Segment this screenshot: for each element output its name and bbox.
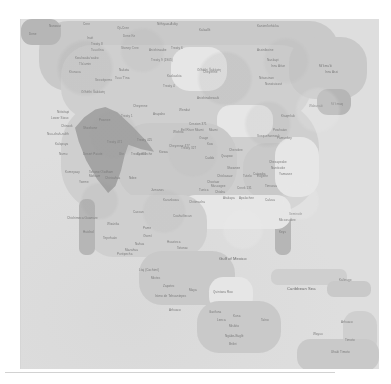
map-label: Kiowa	[159, 151, 168, 154]
map-label: Wayuu	[313, 333, 323, 336]
map-label: Keys	[279, 231, 286, 234]
map-label: Wixárika	[107, 223, 119, 226]
map-label: Ute	[119, 153, 124, 156]
map-label: Coahuiltecan	[173, 215, 192, 218]
map-label: Stoney Cree	[121, 47, 139, 50]
map-label: Bribri	[229, 343, 237, 346]
map-label: Nanticoke	[271, 167, 285, 170]
map-label: Zapotec	[163, 285, 175, 288]
map-label: Tepehuán	[103, 237, 117, 240]
map-label: Ndee	[129, 177, 137, 180]
map-label: Chiaha	[215, 191, 225, 194]
map-label: Tutelo	[243, 175, 252, 178]
map-label: Chiricahua	[105, 177, 120, 180]
map-label: Kaw	[207, 143, 213, 146]
map-label: Quintana Roo	[213, 291, 233, 294]
map-label: Istmo de Tehuantepec	[155, 295, 186, 298]
map-label: Chinook	[61, 125, 73, 128]
map-label: Totonac	[177, 247, 188, 250]
map-label: Kuna	[233, 315, 240, 318]
map-label: Arapaho	[153, 113, 165, 116]
map-label: Numu	[59, 153, 67, 156]
map-label: Karankawa	[163, 199, 179, 202]
map-screenshot: NunavutDeneCreeOji-CreeDene KeNêhiyaw-As…	[0, 0, 391, 384]
map-label: Apalachee	[239, 197, 254, 200]
map-label: Anishinaabe	[149, 49, 167, 52]
map-label: Arhuaco	[341, 321, 353, 324]
map-label: Timoto	[345, 339, 355, 342]
map-label: Yoeme	[79, 181, 89, 184]
plate-bottom-edge	[5, 372, 335, 373]
map-label: Dene Ke	[123, 35, 135, 38]
map-label: Shoshone	[83, 127, 97, 130]
map-label: Tsuut'ina	[91, 49, 104, 52]
map-label: Caddo	[205, 157, 214, 160]
map-label: Muscogee	[211, 185, 226, 188]
map-label: Chichimeca Guamare	[67, 217, 98, 220]
map-label: Uhaki Timoto	[331, 351, 350, 354]
map-label: Huichol	[83, 231, 94, 234]
map-label: Kanien'kehá:ka	[257, 25, 279, 28]
map-label: Tsuu T'ina	[115, 77, 130, 80]
map-label: Eel River Miami	[181, 129, 204, 132]
map-label: Oji-Cree	[117, 27, 129, 30]
map-label: Cession 371	[189, 123, 207, 126]
map-label: Očhéthi Šakówiŋ	[197, 69, 221, 72]
map-label: Treaty 425	[137, 139, 152, 142]
map-label: Caxcan	[133, 211, 144, 214]
map-label: Pame	[143, 227, 151, 230]
map-label: Kalaallit	[199, 29, 210, 32]
map-label: Secwépemc	[95, 79, 112, 82]
map-label: Treaty 471	[107, 141, 122, 144]
map-label: Inuit	[87, 37, 93, 40]
map-label: Nêhiyaw-Askiy	[157, 23, 178, 26]
map-label: Mixtec	[151, 277, 160, 280]
map-label: Kwakwaka'wakw	[75, 57, 99, 60]
map-label: Treaty 9 (1905)	[151, 59, 173, 62]
landmass-hispaniola	[327, 281, 371, 297]
map-label: Desert Paiute	[83, 153, 102, 156]
map-label: Chesapeake	[269, 161, 287, 164]
map-label: Mohave	[89, 175, 100, 178]
map-label: Cree	[83, 23, 90, 26]
map-label: Miami	[209, 129, 218, 132]
map-label: Assiniboine	[257, 49, 273, 52]
map-label: Treaty 8	[91, 43, 103, 46]
map-label: Nuu-chah-nulth	[47, 133, 69, 136]
map-label: Mi'kmaq	[331, 103, 343, 106]
map-label: Kalapuya	[55, 143, 68, 146]
map-label: Purépecha	[117, 253, 132, 256]
map-label: Kalinago	[339, 279, 351, 282]
map-label: Kaskaskia	[167, 75, 182, 78]
map-label: Seminole	[289, 213, 302, 216]
map-label: Miccosukee	[279, 219, 296, 222]
map-label: Ktaqmkuk	[281, 115, 295, 118]
map-label: Creek 131	[237, 187, 252, 190]
map-label: Treaty 477	[131, 153, 146, 156]
map-label: Treaty 6	[171, 47, 183, 50]
map-label: Pamunkey	[277, 137, 292, 140]
map-label: Nunavut	[49, 25, 61, 28]
map-label: Osage	[199, 137, 208, 140]
map-label: Maya	[189, 289, 197, 292]
map-label: Timucua	[265, 185, 277, 188]
map-label: Quapaw	[221, 155, 233, 158]
map-label: Naskapi	[267, 59, 279, 62]
map-label: Nakota	[119, 69, 129, 72]
landmass-alaska-northwest	[21, 19, 61, 45]
map-label: Očhéthi Šakówiŋ	[81, 91, 105, 94]
map-label: Dene	[29, 33, 37, 36]
map-label: Pawnee	[99, 119, 110, 122]
map-label: Eugene	[257, 175, 268, 178]
map-label: Tla'amin	[79, 63, 91, 66]
map-label: Innu Assi	[325, 71, 338, 74]
map-label: Ktunaxa	[69, 71, 81, 74]
map-label: Mi'kma'ki	[319, 65, 332, 68]
map-label: Shawnee	[227, 167, 240, 170]
map-plate[interactable]: NunavutDeneCreeOji-CreeDene KeNêhiyaw-As…	[21, 19, 379, 369]
map-label: Treaty 327	[181, 147, 196, 150]
map-label: Chitimacha	[189, 201, 205, 204]
map-label: Calusa	[265, 199, 275, 202]
map-label: Treaty 1	[121, 115, 133, 118]
map-label: Nitassinan	[259, 77, 274, 80]
